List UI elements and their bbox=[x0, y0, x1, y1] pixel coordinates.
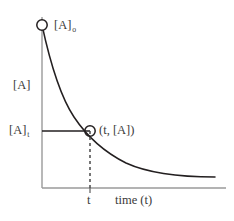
initial-concentration-subscript: o bbox=[72, 25, 76, 34]
initial-concentration-text: [A] bbox=[54, 18, 71, 32]
x-tick-label-t: t bbox=[87, 194, 90, 207]
y-axis-label: [A] bbox=[13, 79, 30, 92]
x-axis-label: time (t) bbox=[115, 194, 152, 207]
concentration-at-t-label: [A]t bbox=[9, 124, 29, 137]
initial-concentration-marker bbox=[37, 20, 47, 30]
concentration-at-t-subscript: t bbox=[27, 130, 29, 139]
point-annotation-label: (t, [A]) bbox=[99, 124, 134, 137]
plot-canvas bbox=[0, 0, 234, 221]
decay-curve bbox=[42, 25, 215, 177]
initial-concentration-label: [A]o bbox=[54, 19, 75, 32]
concentration-at-t-text: [A] bbox=[9, 123, 26, 137]
decay-plot-figure: [A]o [A] [A]t (t, [A]) t time (t) bbox=[0, 0, 234, 221]
